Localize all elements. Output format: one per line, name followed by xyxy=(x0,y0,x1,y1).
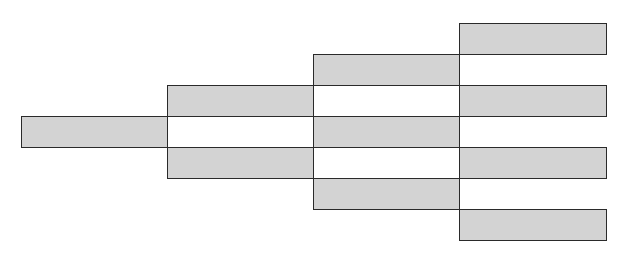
diagram-block-col2-row2 xyxy=(313,116,460,148)
diagram-block-col3-row3 xyxy=(459,209,607,241)
diagram-block-col3-row1 xyxy=(459,85,607,117)
diagram-block-col1-row1 xyxy=(167,116,314,148)
diagram-block-col3-row0 xyxy=(459,23,607,55)
diagram-block-col2-row3 xyxy=(313,147,460,179)
diagram-block-col3-row2 xyxy=(459,147,607,179)
block-diagram xyxy=(0,0,623,262)
diagram-block-col2-row4 xyxy=(313,178,460,210)
diagram-block-col1-row0 xyxy=(167,85,314,117)
diagram-block-col0-row0 xyxy=(21,116,168,148)
diagram-block-col1-row2 xyxy=(167,147,314,179)
diagram-block-col2-row1 xyxy=(313,85,460,117)
diagram-block-col2-row0 xyxy=(313,54,460,86)
